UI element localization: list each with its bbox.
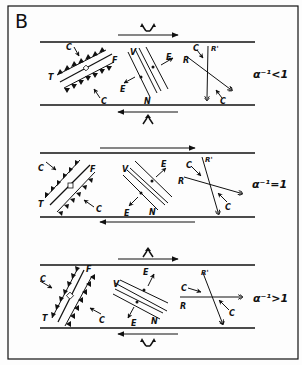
condition-label: α⁻¹<1 [253, 68, 288, 81]
svg-text:E: E [120, 85, 126, 94]
extension-veins: V N E E [113, 268, 168, 328]
thrust-fault: T F C C [48, 43, 118, 106]
panel-1: T F C C V N E E R R' C [40, 23, 288, 124]
svg-text:R: R [183, 56, 189, 65]
svg-text:R': R' [211, 45, 219, 53]
svg-text:E: E [161, 160, 167, 169]
thrust-fault: T F C C [38, 160, 102, 216]
svg-text:F: F [90, 165, 96, 174]
condition-label: α⁻¹>1 [253, 292, 288, 305]
svg-text:N: N [151, 317, 158, 326]
extension-marker-icon [140, 23, 156, 31]
svg-text:E: E [143, 268, 149, 277]
riedel-shears: R R' C C [178, 156, 240, 212]
extension-veins: V N E E [120, 47, 173, 106]
compression-marker-icon [143, 114, 153, 124]
svg-text:T: T [38, 200, 44, 209]
svg-text:C: C [96, 205, 102, 214]
riedel-shears: R R' C C [183, 44, 230, 106]
panel-label: B [15, 10, 28, 32]
svg-text:E: E [131, 319, 137, 328]
svg-text:C: C [193, 44, 199, 53]
svg-text:V: V [122, 165, 129, 174]
svg-text:C: C [181, 284, 187, 293]
svg-text:C: C [101, 97, 107, 106]
compression-marker-icon [143, 247, 153, 257]
riedel-shears: R R' C C [180, 269, 240, 322]
svg-text:C: C [229, 309, 235, 318]
svg-text:R': R' [201, 269, 209, 277]
svg-text:R: R [178, 177, 184, 186]
svg-text:F: F [112, 56, 118, 65]
svg-text:C: C [40, 275, 46, 284]
svg-text:C: C [99, 316, 105, 325]
svg-text:C: C [220, 97, 226, 106]
svg-text:V: V [130, 48, 137, 57]
svg-text:N: N [144, 97, 151, 106]
svg-text:F: F [86, 265, 92, 274]
shear-zone-diagram: B T F C C [0, 0, 302, 365]
svg-text:E: E [124, 209, 130, 218]
svg-text:R: R [180, 302, 186, 311]
svg-text:C: C [186, 161, 192, 170]
panel-3: T F C C V N E E R R' C C [40, 247, 288, 346]
svg-text:V: V [113, 280, 120, 289]
extension-marker-icon [140, 338, 156, 346]
svg-text:C: C [38, 164, 44, 173]
svg-text:T: T [42, 314, 48, 323]
panel-2: T F C C V N E E R R' C C [38, 148, 287, 222]
svg-text:C: C [225, 203, 231, 212]
svg-text:T: T [48, 73, 54, 82]
svg-text:C: C [66, 43, 72, 52]
svg-text:E: E [166, 53, 172, 62]
svg-text:R': R' [205, 156, 213, 164]
condition-label: α⁻¹=1 [252, 178, 287, 191]
thrust-fault: T F C C [40, 265, 105, 327]
svg-text:N: N [149, 208, 156, 217]
extension-veins: V N E E [122, 160, 172, 218]
